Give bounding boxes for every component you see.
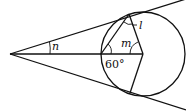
lower-tangent-line [10,54,186,110]
label-60-degrees: 60° [105,58,125,71]
angle-arc-n [50,42,51,54]
label-m: m [121,37,131,50]
geometry-diagram: n m l 60° [0,0,186,111]
angle-arc-60 [108,44,111,54]
radius-lower [130,54,143,93]
label-n: n [52,40,59,53]
upper-tangent-line [10,0,186,54]
label-l: l [139,19,143,32]
diagram-canvas: n m l 60° [0,0,186,111]
